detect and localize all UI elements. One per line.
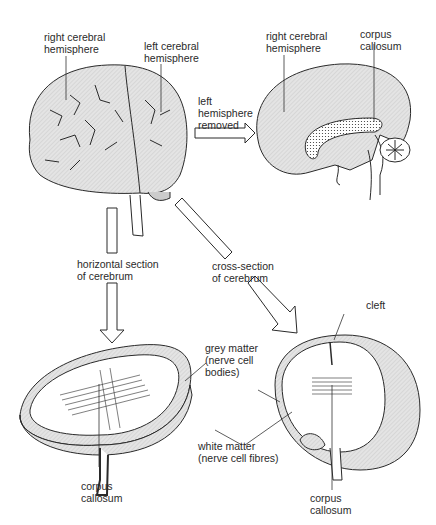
label-corpus-callosum-sagittal: corpus callosum — [360, 28, 401, 52]
sagittal-brain — [257, 64, 411, 200]
label-left-cerebral-hemisphere: left cerebral hemisphere — [144, 40, 199, 64]
label-grey-matter: grey matter (nerve cell bodies) — [205, 342, 258, 378]
cross-section — [275, 335, 420, 480]
label-right-cerebral-hemisphere: right cerebral hemisphere — [44, 31, 105, 55]
label-horizontal-section: horizontal section of cerebrum — [77, 258, 159, 282]
label-white-matter: white matter (nerve cell fibres) — [198, 440, 279, 464]
label-cleft: cleft — [366, 299, 385, 311]
label-cross-section: cross-section of cerebrum — [212, 260, 274, 284]
label-left-hemisphere-removed: left hemisphere removed — [198, 95, 253, 131]
label-corpus-callosum-horizontal: corpus callosum — [81, 480, 122, 504]
horizontal-section — [20, 345, 192, 495]
label-right-cerebral-hemisphere-sagittal: right cerebral hemisphere — [266, 30, 327, 54]
label-corpus-callosum-cross: corpus callosum — [310, 492, 351, 516]
